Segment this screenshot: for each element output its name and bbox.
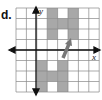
x-axis: [9, 47, 100, 53]
translation-arrow: [63, 38, 72, 58]
H-figure-original-cell: [68, 8, 78, 19]
y-axis-label: y: [38, 6, 43, 16]
H-figure-image-cell: [37, 61, 47, 72]
H-figure-original-cell: [47, 29, 57, 40]
H-figure-image-cell: [47, 71, 57, 82]
H-figure-image-cell: [58, 71, 68, 82]
H-figure-original-cell: [68, 19, 78, 30]
coordinate-grid: y x: [0, 0, 102, 100]
H-figure-original-cell: [58, 19, 68, 30]
H-figure-image-cell: [58, 61, 68, 72]
H-figure-original-cell: [68, 29, 78, 40]
H-figure-original-cell: [47, 8, 57, 19]
H-figure-image-cell: [37, 71, 47, 82]
x-axis-label: x: [91, 52, 96, 62]
H-figure-image-cell: [58, 82, 68, 93]
H-figure-original-cell: [47, 19, 57, 30]
